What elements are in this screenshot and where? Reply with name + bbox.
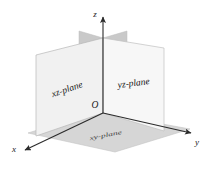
coordinate-planes-figure: z y x O xz-plane yz-plane xy-plane <box>0 0 209 174</box>
y-axis-label: y <box>194 137 199 147</box>
z-axis-label: z <box>92 9 97 19</box>
figure-canvas: z y x O xz-plane yz-plane xy-plane <box>0 0 209 174</box>
x-axis-label: x <box>11 144 16 154</box>
origin-label: O <box>92 100 99 110</box>
